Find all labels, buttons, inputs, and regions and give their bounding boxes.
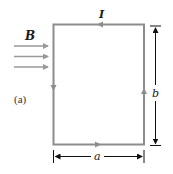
width-label: a [94,150,101,163]
panel-label: (a) [14,93,27,106]
arrow-left-icon [97,22,103,28]
arrow-down-icon [51,85,57,91]
height-dimension [150,26,161,146]
current-loop-diagram: B (a) I b a [0,0,173,174]
arrow-up-icon [141,88,147,94]
height-label: b [152,87,159,100]
arrow-right-icon [95,142,101,148]
current-direction-arrows [51,22,148,148]
field-label: B [24,29,35,43]
current-loop [54,25,145,145]
magnetic-field-arrows [14,46,48,67]
current-label: I [98,8,105,21]
